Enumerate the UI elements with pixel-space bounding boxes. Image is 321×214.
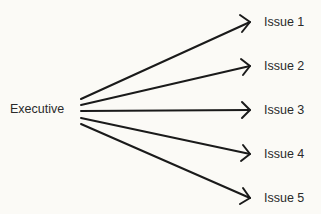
target-node-label-5: Issue 5 [264, 191, 304, 205]
target-node-label-2: Issue 2 [264, 59, 304, 73]
arrow-issue-4 [81, 118, 250, 161]
arrow-issue-2 [81, 59, 250, 105]
target-node-label-3: Issue 3 [264, 103, 304, 117]
arrow-issue-3 [81, 102, 250, 118]
target-node-label-4: Issue 4 [264, 147, 304, 161]
source-node-label: Executive [10, 102, 64, 116]
target-node-label-1: Issue 1 [264, 15, 304, 29]
